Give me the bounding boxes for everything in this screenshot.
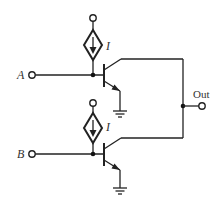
junction-dot <box>91 73 96 78</box>
ground-icon <box>113 111 127 117</box>
emitter-arrow-icon <box>112 164 121 171</box>
supply-terminal-top <box>90 15 96 21</box>
input-b-terminal[interactable] <box>29 151 35 157</box>
output-group: Out <box>181 59 210 138</box>
current-source-top-group: I <box>84 15 111 75</box>
circuit-schematic: I A I B <box>0 0 223 213</box>
collector-lead <box>104 59 121 70</box>
input-a-label: A <box>16 68 25 82</box>
input-a-group: A <box>16 68 103 82</box>
arrow-down-icon <box>90 47 97 54</box>
output-label: Out <box>193 88 210 100</box>
output-terminal[interactable] <box>199 103 205 109</box>
ground-icon <box>113 188 127 194</box>
current-label-top: I <box>105 39 111 53</box>
current-source-bottom-group: I <box>84 100 111 154</box>
junction-dot <box>91 152 96 157</box>
current-label-bottom: I <box>105 120 111 134</box>
arrow-down-icon <box>90 130 97 137</box>
supply-terminal-bottom <box>90 100 96 106</box>
npn-transistor-top-icon <box>104 59 183 117</box>
input-a-terminal[interactable] <box>29 72 35 78</box>
npn-transistor-bottom-icon <box>104 138 183 194</box>
input-b-group: B <box>17 147 103 161</box>
emitter-arrow-icon <box>112 85 121 92</box>
collector-lead <box>104 138 121 149</box>
input-b-label: B <box>17 147 25 161</box>
